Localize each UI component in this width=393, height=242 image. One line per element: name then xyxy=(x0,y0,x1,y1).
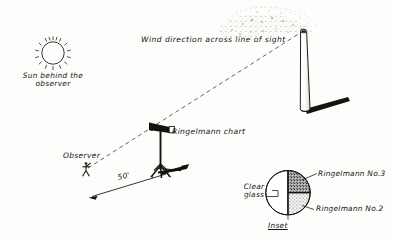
ringelmann-no3-label: Ringelmann No.3 xyxy=(318,170,385,178)
dashed-line-of-sight xyxy=(88,33,300,168)
smokestack xyxy=(300,29,350,114)
clear-glass-line2: glass xyxy=(244,190,264,199)
inset-label: Inset xyxy=(268,222,288,230)
ringelmann-no2-label: Ringelmann No.2 xyxy=(316,205,383,213)
observer-label: Observer xyxy=(63,152,100,160)
sun-behind-observer-label: Sun behind theobserver xyxy=(14,72,92,89)
diagram-canvas: Wind direction across line of sight Sun … xyxy=(0,0,393,242)
sun-icon xyxy=(35,36,71,70)
wind-direction-label: Wind direction across line of sight xyxy=(141,36,286,45)
observer-stick-figure xyxy=(82,162,90,176)
ringelmann-chart-label: Ringelmann chart xyxy=(172,128,245,137)
clear-glass-label: Clearglass xyxy=(234,183,274,200)
sun-label-line2: observer xyxy=(35,79,70,88)
